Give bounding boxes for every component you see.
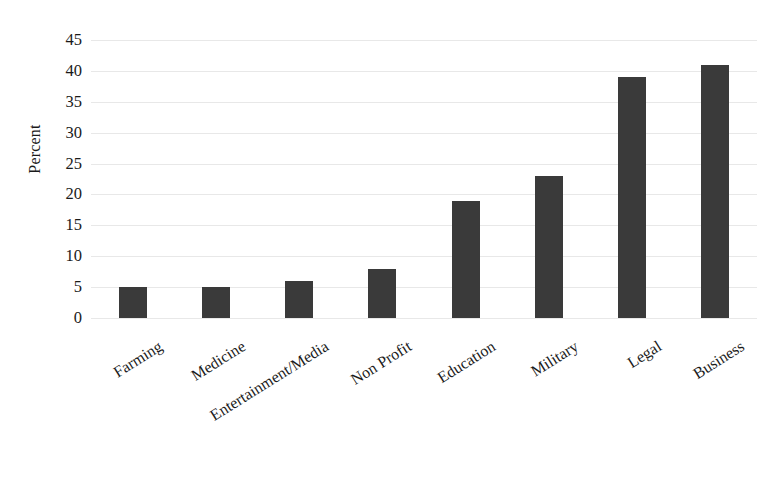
gridline [91, 71, 757, 72]
bar[interactable] [119, 287, 147, 318]
y-axis-tick-label: 15 [42, 215, 82, 235]
x-axis-tick-label: Non Profit [236, 337, 415, 458]
bar[interactable] [452, 201, 480, 318]
bar[interactable] [285, 281, 313, 318]
y-axis-tick-label: 40 [42, 61, 82, 81]
gridline [91, 133, 757, 134]
x-axis-tick-label: Entertainment/Media [153, 337, 332, 458]
y-axis-title: Percent [26, 114, 44, 184]
y-axis-tick-label: 25 [42, 154, 82, 174]
bar[interactable] [368, 269, 396, 318]
x-axis-tick-label: Education [319, 337, 498, 458]
y-axis-tick-label: 45 [42, 30, 82, 50]
bar[interactable] [535, 176, 563, 318]
bar[interactable] [701, 65, 729, 318]
gridline [91, 287, 757, 288]
y-axis-tick-label: 10 [42, 246, 82, 266]
x-axis-tick-label: Military [402, 337, 581, 458]
gridline [91, 256, 757, 257]
y-axis-tick-label: 30 [42, 123, 82, 143]
gridline [91, 40, 757, 41]
x-axis-tick-label: Legal [486, 337, 665, 458]
x-axis-tick-label: Farming [0, 337, 165, 458]
x-axis-tick-label: Medicine [69, 337, 248, 458]
bar[interactable] [618, 77, 646, 318]
gridline [91, 225, 757, 226]
x-axis-tick-label: Business [569, 337, 748, 458]
gridline [91, 194, 757, 195]
gridline [91, 164, 757, 165]
y-axis-tick-label: 5 [42, 277, 82, 297]
y-axis-tick-label: 20 [42, 184, 82, 204]
gridline [91, 102, 757, 103]
plot-area [91, 40, 757, 318]
y-axis-tick-label: 0 [42, 308, 82, 328]
y-axis-tick-label: 35 [42, 92, 82, 112]
gridline [91, 318, 757, 319]
bar-chart: Percent 051015202530354045 FarmingMedici… [0, 0, 776, 504]
bar[interactable] [202, 287, 230, 318]
